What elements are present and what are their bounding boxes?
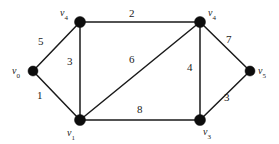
vertex-label: v4: [60, 8, 68, 21]
edge-weight-label: 7: [226, 34, 232, 45]
graph-vertex: [28, 66, 38, 76]
vertex-label: v5: [258, 66, 266, 79]
graph-vertex: [195, 17, 206, 28]
edge-weight-label: 8: [137, 104, 143, 115]
graph-vertex: [75, 115, 86, 126]
vertex-label-subscript: 1: [71, 134, 75, 142]
graph-diagram: 512368473v0v4v4v1v3v5: [0, 0, 279, 144]
graph-vertex: [195, 115, 206, 126]
edge-weight-label: 3: [224, 92, 230, 103]
vertex-label-subscript: 3: [207, 133, 211, 141]
vertex-label-subscript: 5: [262, 72, 266, 80]
graph-vertex: [245, 66, 255, 76]
edge-weight-label: 3: [67, 56, 73, 67]
vertex-label-subscript: 4: [64, 14, 68, 22]
graph-vertex: [75, 17, 86, 28]
edge-weight-label: 5: [38, 36, 44, 47]
vertex-label-subscript: 0: [16, 72, 20, 80]
graph-canvas: [0, 0, 279, 144]
vertex-label: v0: [12, 66, 20, 79]
vertex-label: v4: [208, 8, 216, 21]
edge-weight-label: 6: [129, 54, 135, 65]
vertex-label-subscript: 4: [212, 14, 216, 22]
edge-weight-label: 4: [187, 62, 193, 73]
vertex-label: v3: [203, 127, 211, 140]
vertex-label: v1: [67, 128, 75, 141]
edge-weight-label: 1: [37, 90, 43, 101]
graph-edge: [200, 22, 250, 71]
edge-weight-label: 2: [129, 8, 135, 19]
